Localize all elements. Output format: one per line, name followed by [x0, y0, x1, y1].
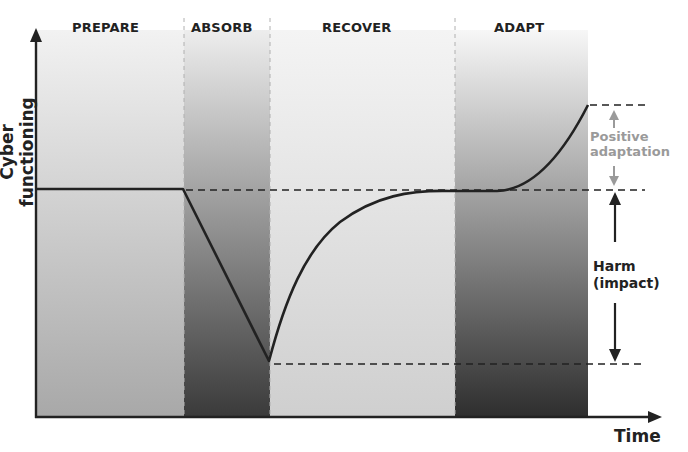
- phase-label-absorb: ABSORB: [191, 20, 253, 35]
- phase-label-prepare: PREPARE: [72, 20, 139, 35]
- phase-label-adapt: ADAPT: [494, 20, 544, 35]
- arrow-up-icon: [609, 110, 619, 120]
- arrow-up-icon: [609, 192, 621, 205]
- positive-adaptation-line-1: Positive: [590, 129, 670, 144]
- phase-label-recover: RECOVER: [322, 20, 392, 35]
- y-axis-label: Cyber functioning: [0, 77, 37, 227]
- phase-band-recover: [270, 30, 455, 417]
- diagram-canvas: [0, 0, 688, 452]
- arrow-down-icon: [609, 176, 619, 186]
- phase-band-prepare: [37, 30, 184, 417]
- harm-label: Harm (impact): [593, 258, 660, 292]
- phase-band-absorb: [184, 30, 270, 417]
- phase-bands: [37, 30, 588, 417]
- positive-adaptation-line-2: adaptation: [590, 144, 670, 159]
- arrow-down-icon: [609, 349, 621, 362]
- phase-band-adapt: [455, 30, 588, 417]
- x-axis-label: Time: [614, 426, 661, 446]
- positive-adaptation-label: Positive adaptation: [590, 129, 670, 159]
- harm-line-1: Harm: [593, 258, 660, 275]
- harm-line-2: (impact): [593, 275, 660, 292]
- x-axis-arrow-icon: [648, 411, 662, 423]
- resilience-diagram: PREPARE ABSORB RECOVER ADAPT Cyber funct…: [0, 0, 688, 452]
